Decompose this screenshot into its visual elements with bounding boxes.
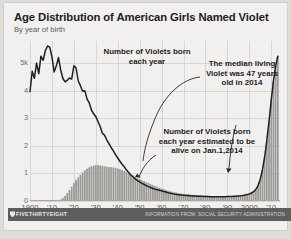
annotation-leader-lines bbox=[4, 3, 287, 230]
brand-label: FIVETHIRTYEIGHT bbox=[16, 211, 67, 217]
annotation-births: Number of Violets born each year bbox=[102, 47, 192, 66]
fivethirtyeight-logo-icon bbox=[10, 211, 15, 217]
annotation-alive-estimate: Number of Violets born each year estimat… bbox=[154, 127, 260, 156]
source-label: INFORMATION FROM: SOCIAL SECURITY ADMINI… bbox=[145, 212, 285, 217]
annotation-median-age: The median living Violet was 47 years ol… bbox=[200, 59, 284, 88]
chart-footer: FIVETHIRTYEIGHT INFORMATION FROM: SOCIAL… bbox=[8, 208, 291, 221]
chart-card: Age Distribution of American Girls Named… bbox=[4, 3, 287, 230]
